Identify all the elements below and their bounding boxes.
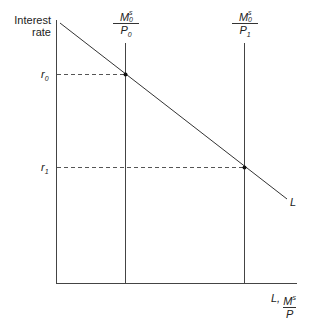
demand-curve-label: L — [290, 196, 296, 208]
money-supply-label-0: Ms0 P0 — [113, 11, 139, 41]
y-axis-label-line1: Interest — [13, 14, 51, 26]
rate-1-label: r1 — [41, 161, 49, 178]
liquidity-demand-curve — [60, 23, 287, 199]
x-axis-label: L, Ms P — [271, 292, 311, 321]
equilibrium-point-1 — [243, 166, 247, 170]
y-axis-label-line2: rate — [13, 26, 51, 38]
money-supply-label-1: Ms0 P1 — [232, 11, 258, 41]
equilibrium-point-0 — [124, 73, 128, 77]
rate-0-label: r0 — [41, 68, 49, 85]
y-axis-label: Interest rate — [13, 14, 51, 38]
